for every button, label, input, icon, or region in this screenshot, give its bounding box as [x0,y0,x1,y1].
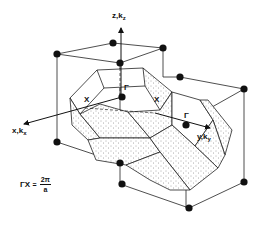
x-point-left-label: X [84,96,89,104]
lattice-point [185,204,192,211]
z-axis-label: z,kz [112,12,126,20]
lattice-point [240,178,247,185]
lattice-point [118,93,125,100]
lattice-point [118,180,125,187]
formula: ΓX = 2π a [20,176,51,193]
lattice-point [182,121,189,128]
lattice-point [109,39,116,46]
lattice-point [240,85,247,92]
gamma-left-label: Γ [124,84,129,92]
y-axis-label: y,ky [197,133,211,141]
lattice-point [116,59,123,66]
gamma-right-label: Γ [184,112,189,120]
lattice-point [176,73,183,80]
x-axis-label: x,kx [12,127,26,135]
x-point-right-label: X [154,96,159,104]
lattice-point [53,50,60,57]
lattice-point [159,44,166,51]
formula-fraction: 2π a [40,176,51,193]
lattice-point [116,159,123,166]
lattice-point [53,138,60,145]
